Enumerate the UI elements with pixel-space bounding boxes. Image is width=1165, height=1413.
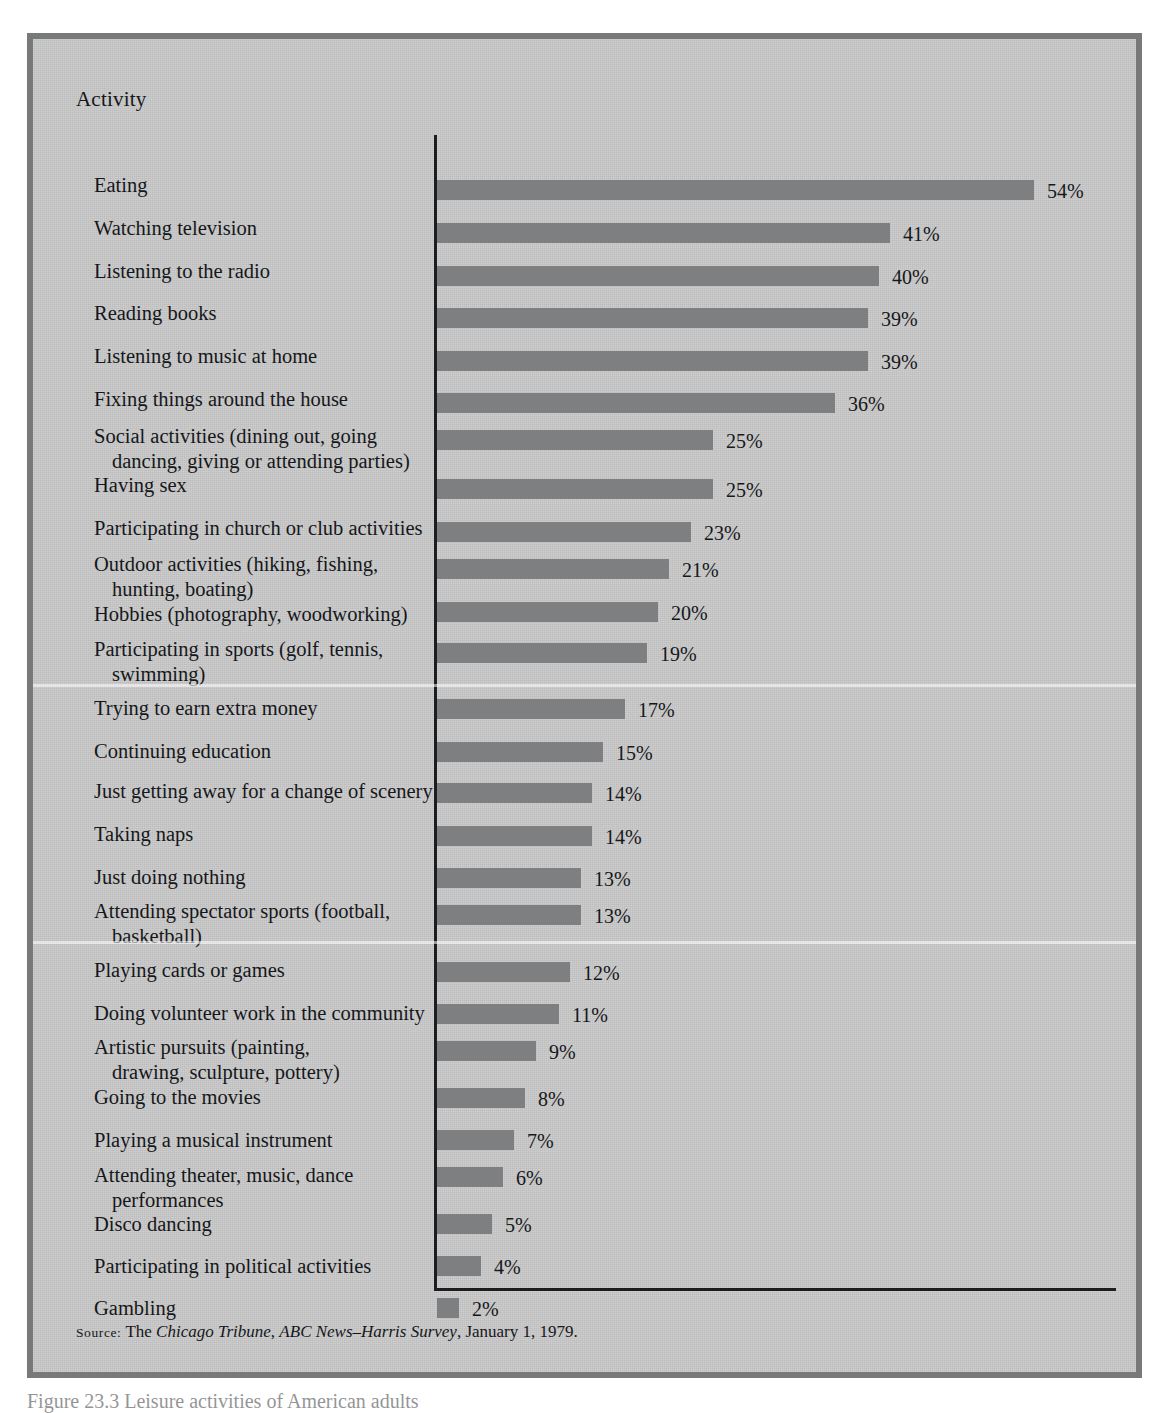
bar-row-label: Doing volunteer work in the community (76, 1001, 446, 1026)
bar-value-label: 21% (682, 560, 719, 580)
bar-row-label: Listening to the radio (76, 259, 446, 284)
bar (437, 783, 592, 803)
bar-row-label: Just doing nothing (76, 865, 446, 890)
bar-row-label: Social activities (dining out, going dan… (94, 424, 464, 474)
figure-panel: Activity Eating54%Watching television41%… (27, 33, 1142, 1378)
bar (437, 742, 603, 762)
source-date: , January 1, 1979. (457, 1322, 578, 1341)
bar-row-label: Gambling (76, 1296, 446, 1321)
bar (437, 266, 879, 286)
bar (437, 868, 581, 888)
bar-row-label: Participating in political activities (76, 1254, 446, 1279)
bar-row-label: Participating in church or club activiti… (76, 516, 446, 541)
bar-value-label: 14% (605, 827, 642, 847)
bar-value-label: 41% (903, 224, 940, 244)
bar (437, 1167, 503, 1187)
bar-row-label: Going to the movies (76, 1085, 446, 1110)
bar-value-label: 5% (505, 1215, 532, 1235)
bar-row-label: Fixing things around the house (76, 387, 446, 412)
bar-row-label: Playing cards or games (76, 958, 446, 983)
bar (437, 826, 592, 846)
bar (437, 602, 658, 622)
bar (437, 1004, 559, 1024)
bar-row-label: Outdoor activities (hiking, fishing, hun… (94, 552, 464, 602)
bar-row-label: Reading books (76, 301, 446, 326)
bar-row-label: Attending spectator sports (football, ba… (94, 899, 464, 949)
bar (437, 699, 625, 719)
bar (437, 351, 868, 371)
bar-value-label: 12% (583, 963, 620, 983)
bar (437, 1130, 514, 1150)
bar (437, 393, 835, 413)
source-note: Source: The Chicago Tribune, ABC News–Ha… (76, 1322, 578, 1342)
bar-value-label: 9% (549, 1042, 576, 1062)
bar-row-label: Playing a musical instrument (76, 1128, 446, 1153)
bar (437, 308, 868, 328)
bar-value-label: 19% (660, 644, 697, 664)
bar (437, 1088, 525, 1108)
bar-row-label: Attending theater, music, dance performa… (94, 1163, 464, 1213)
bar (437, 522, 691, 542)
bar-value-label: 25% (726, 480, 763, 500)
bar-value-label: 13% (594, 869, 631, 889)
source-publication: Chicago Tribune (156, 1322, 271, 1341)
bar-value-label: 40% (892, 267, 929, 287)
bar-row-label: Hobbies (photography, woodworking) (76, 602, 446, 627)
bar-value-label: 11% (572, 1005, 608, 1025)
bar-value-label: 23% (704, 523, 741, 543)
bar-value-label: 20% (671, 603, 708, 623)
bar (437, 559, 669, 579)
bar-value-label: 36% (848, 394, 885, 414)
bar-value-label: 14% (605, 784, 642, 804)
bar-row-label: Participating in sports (golf, tennis, s… (94, 637, 464, 687)
bar-row-label: Just getting away for a change of scener… (76, 779, 446, 804)
bar-value-label: 6% (516, 1168, 543, 1188)
bar (437, 1298, 459, 1318)
bar-value-label: 17% (638, 700, 675, 720)
column-heading-activity: Activity (76, 87, 146, 112)
bar-value-label: 4% (494, 1257, 521, 1277)
source-survey: ABC News–Harris Survey (279, 1322, 457, 1341)
bar-row-label: Eating (76, 173, 446, 198)
bar-value-label: 13% (594, 906, 631, 926)
source-prefix: The (125, 1322, 156, 1341)
bar (437, 1256, 481, 1276)
bar-value-label: 8% (538, 1089, 565, 1109)
bar (437, 180, 1034, 200)
bar-row-label: Artistic pursuits (painting, drawing, sc… (94, 1035, 464, 1085)
bar-value-label: 39% (881, 352, 918, 372)
bar-value-label: 2% (472, 1299, 499, 1319)
figure-caption: Figure 23.3 Leisure activities of Americ… (27, 1390, 419, 1413)
bar-row-label: Listening to music at home (76, 344, 446, 369)
bar-value-label: 54% (1047, 181, 1084, 201)
bar (437, 223, 890, 243)
bar-row-label: Taking naps (76, 822, 446, 847)
bar (437, 479, 713, 499)
bar-row-label: Having sex (76, 473, 446, 498)
x-axis-baseline (434, 1288, 1116, 1291)
bar-row-label: Disco dancing (76, 1212, 446, 1237)
bar-chart-plot-area: Activity Eating54%Watching television41%… (33, 39, 1136, 1372)
bar (437, 643, 647, 663)
bar-row-label: Trying to earn extra money (76, 696, 446, 721)
bar-row-label: Watching television (76, 216, 446, 241)
bar-value-label: 7% (527, 1131, 554, 1151)
bar-value-label: 15% (616, 743, 653, 763)
bar-value-label: 25% (726, 431, 763, 451)
bar-value-label: 39% (881, 309, 918, 329)
bar-row-label: Continuing education (76, 739, 446, 764)
bar (437, 905, 581, 925)
bar (437, 1214, 492, 1234)
bar (437, 430, 713, 450)
bar (437, 1041, 536, 1061)
source-label: Source: (76, 1325, 121, 1340)
bar (437, 962, 570, 982)
